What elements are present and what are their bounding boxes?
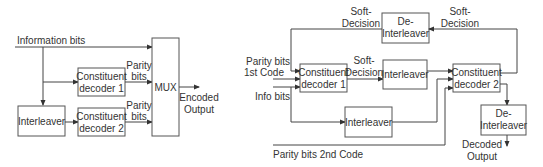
top-deinterleaver-line2: Interleaver (382, 28, 430, 39)
parity1-label-line2: bits (131, 71, 147, 82)
soft-mid-line2: Decision (345, 67, 383, 78)
parity-2nd-label: Parity bits 2nd Code (273, 149, 363, 160)
top-deinterleaver-line1: De- (397, 16, 413, 27)
soft-mid-line1: Soft- (353, 55, 374, 66)
parity1-label-line1: Parity (126, 60, 152, 71)
mid-interleaver-label: Interleaver (381, 69, 429, 80)
feedback-right-line2: Decision (441, 18, 479, 29)
encoded-output-line1: Encoded (179, 92, 218, 103)
decoder-decoder2-line1: Constituent (451, 67, 502, 78)
feedback-left-line1: Soft- (350, 6, 371, 17)
bottom-interleaver-label: Interleaver (345, 117, 393, 128)
parity2-label-line1: Parity (126, 100, 152, 111)
feedback-right-line1: Soft- (449, 6, 470, 17)
info-bits-label: Info bits (255, 91, 290, 102)
mux-label: MUX (154, 82, 177, 93)
encoder-decoder1-line2: decoder 1 (79, 83, 124, 94)
encoder-decoder1-line1: Constituent (76, 71, 127, 82)
information-bits-label: Information bits (17, 35, 85, 46)
encoder-diagram: Information bits Interleaver Constituent… (15, 35, 219, 136)
encoded-output-line2: Output (184, 104, 214, 115)
parity-1st-line1: Parity bits (246, 56, 290, 67)
parity-1st-line2: 1st Code (244, 67, 284, 78)
encoder-decoder2-line2: decoder 2 (79, 123, 124, 134)
decoded-output-line1: Decoded (462, 139, 502, 150)
parity2-label-line2: bits (131, 111, 147, 122)
bottom-deinterleaver-line1: De- (495, 108, 511, 119)
decoder-decoder1-line1: Constituent (298, 67, 349, 78)
decoder-diagram: De- Interleaver Soft- Decision Soft- Dec… (244, 6, 528, 162)
decoded-output-line2: Output (467, 151, 497, 162)
decoder-decoder2-line2: decoder 2 (454, 79, 499, 90)
turbo-code-diagram: Information bits Interleaver Constituent… (0, 0, 543, 167)
bottom-deinterleaver-line2: Interleaver (480, 120, 528, 131)
feedback-left-line2: Decision (342, 18, 380, 29)
decoder-decoder1-line2: decoder 1 (301, 79, 346, 90)
encoder-decoder2-line1: Constituent (76, 111, 127, 122)
decoder2-to-deinterleaver-arrow (500, 84, 507, 105)
encoder-interleaver-label: Interleaver (18, 116, 66, 127)
